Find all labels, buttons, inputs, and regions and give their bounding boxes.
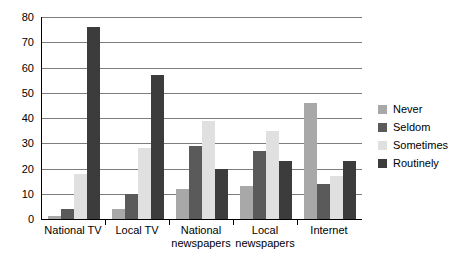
- legend-item-label: Never: [393, 104, 422, 115]
- bar: [61, 209, 74, 219]
- legend-item: Never: [378, 100, 456, 118]
- plot-area: [41, 17, 362, 220]
- bar: [253, 151, 266, 219]
- bar: [330, 176, 343, 219]
- bar-group: [112, 17, 164, 219]
- legend-item-label: Seldom: [393, 122, 430, 133]
- x-axis-category-label: Internet: [289, 224, 369, 237]
- bar: [125, 194, 138, 219]
- y-axis-tick-label: 0: [12, 214, 34, 225]
- legend-item: Sometimes: [378, 136, 456, 154]
- x-axis-tick: [233, 220, 234, 225]
- bar: [215, 169, 228, 220]
- legend-swatch-icon: [378, 105, 387, 114]
- bar-group: [176, 17, 228, 219]
- chart-legend: NeverSeldomSometimesRoutinely: [378, 100, 456, 172]
- bar: [74, 174, 87, 219]
- bar: [279, 161, 292, 219]
- y-axis-tick-label: 40: [12, 113, 34, 124]
- bar: [87, 27, 100, 219]
- bar: [317, 184, 330, 219]
- legend-item: Seldom: [378, 118, 456, 136]
- bar: [304, 103, 317, 219]
- bar: [176, 189, 189, 219]
- y-axis-tick-label: 50: [12, 87, 34, 98]
- x-axis-tick: [105, 220, 106, 225]
- y-axis-tick-label: 20: [12, 163, 34, 174]
- legend-item-label: Sometimes: [393, 140, 448, 151]
- bar: [151, 75, 164, 219]
- legend-swatch-icon: [378, 141, 387, 150]
- legend-swatch-icon: [378, 159, 387, 168]
- y-axis-tick-label: 30: [12, 138, 34, 149]
- x-axis-tick: [169, 220, 170, 225]
- bar: [112, 209, 125, 219]
- bar: [202, 121, 215, 219]
- plot-inner: [42, 17, 362, 219]
- bar: [240, 186, 253, 219]
- y-axis-tick-label: 60: [12, 62, 34, 73]
- bar: [48, 216, 61, 219]
- bar-chart: 01020304050607080 National TVLocal TVNat…: [0, 0, 457, 264]
- bar-group: [48, 17, 100, 219]
- bar: [266, 131, 279, 219]
- y-axis-tick-label: 10: [12, 188, 34, 199]
- legend-swatch-icon: [378, 123, 387, 132]
- y-axis-tick-label: 70: [12, 37, 34, 48]
- bar-group: [304, 17, 356, 219]
- x-axis-tick: [297, 220, 298, 225]
- bar: [343, 161, 356, 219]
- bar: [189, 146, 202, 219]
- bar: [138, 148, 151, 219]
- bar-group: [240, 17, 292, 219]
- y-axis: 01020304050607080: [10, 0, 34, 264]
- legend-item: Routinely: [378, 154, 456, 172]
- y-axis-tick-label: 80: [12, 12, 34, 23]
- legend-item-label: Routinely: [393, 158, 439, 169]
